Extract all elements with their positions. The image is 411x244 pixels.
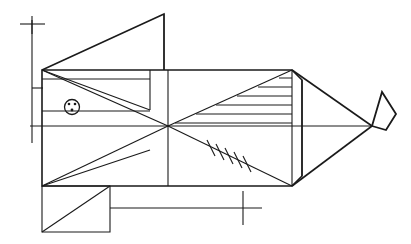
tick-mark-3 xyxy=(225,148,233,164)
artwork-canvas xyxy=(0,0,411,244)
diagonal-top-left-to-centre xyxy=(42,70,168,126)
diagonal-left-corner-lower-sweep xyxy=(42,150,150,186)
tail-group xyxy=(292,70,396,186)
diagonal-left-corner-upper-sweep xyxy=(42,70,150,110)
eye-ring-icon xyxy=(65,100,80,115)
ventral-fin-group xyxy=(42,186,110,232)
tail-triangle-upper-edge xyxy=(292,70,372,126)
diagonal-bottom-left-to-centre xyxy=(42,126,168,186)
ventral-fin-diagonal xyxy=(42,186,110,232)
diagonal-centre-to-top-right xyxy=(168,70,292,126)
hatch-lines-upper-right-triangle xyxy=(175,78,292,123)
fish-line-drawing xyxy=(0,0,411,244)
dorsal-fin-group xyxy=(42,14,164,70)
dorsal-fin-triangle xyxy=(42,14,164,70)
horizontal-shelves-group xyxy=(42,79,150,111)
tail-triangle-lower-edge xyxy=(292,126,372,186)
eye-dot-lower xyxy=(71,109,74,112)
internal-diagonals-group xyxy=(42,70,292,186)
eye-dot-right xyxy=(74,103,77,106)
fish-eye xyxy=(65,100,80,115)
tick-marks-on-lower-diagonal xyxy=(207,140,251,172)
diagonal-centre-to-bottom-right xyxy=(168,126,292,186)
tail-tip-diamond xyxy=(372,92,396,130)
tick-mark-5 xyxy=(243,156,251,172)
tick-mark-4 xyxy=(234,152,242,168)
eye-dot-left xyxy=(68,103,71,106)
reference-marks-group xyxy=(20,16,262,225)
